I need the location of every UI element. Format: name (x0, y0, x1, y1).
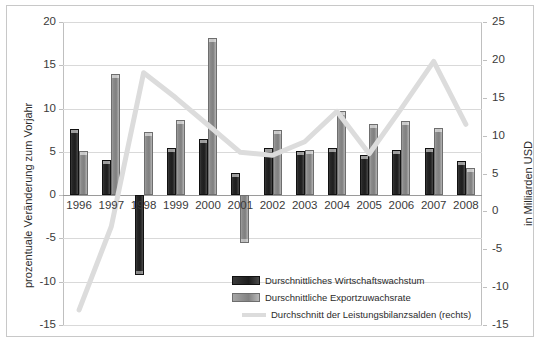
right-axis-title: in Milliarden USD (522, 141, 534, 226)
bar-highlight (467, 169, 474, 172)
bar-highlight (338, 112, 345, 115)
right-axis-tickmark (483, 22, 487, 23)
bar-highlight (232, 174, 239, 177)
bar-highlight (370, 125, 377, 128)
legend-item-balance: Durchschnitt der Leistungsbilanzsalden (… (232, 306, 484, 323)
left-axis-tickmark (59, 65, 63, 66)
left-axis-tickmark (59, 152, 63, 153)
legend-swatch-balance (242, 313, 266, 317)
bar-growth-2001 (231, 173, 240, 196)
bar-growth-1999 (167, 148, 176, 195)
right-axis-tickmark (483, 136, 487, 137)
left-axis-tick-0: 0 (14, 189, 56, 201)
bar-highlight (274, 131, 281, 134)
left-axis-tickmark (59, 195, 63, 196)
left-axis-tickmark (59, 109, 63, 110)
bar-export-1996 (79, 151, 88, 195)
bar-highlight (145, 133, 152, 136)
right-axis-tickmark (483, 60, 487, 61)
bar-highlight (393, 151, 400, 154)
bar-highlight (297, 152, 304, 155)
bar-highlight (112, 75, 119, 78)
bar-growth-2002 (264, 148, 273, 195)
bar-export-2005 (369, 124, 378, 195)
bar-growth-2007 (425, 148, 434, 196)
bar-highlight (458, 162, 465, 165)
bar-export-2008 (466, 168, 475, 195)
legend-swatch-export (232, 293, 260, 302)
right-axis-tick--10: -10 (492, 281, 522, 293)
bar-growth-1996 (70, 129, 79, 196)
right-axis-tick--15: -15 (492, 319, 522, 331)
bar-highlight (209, 39, 216, 42)
bar-highlight (136, 271, 143, 274)
left-axis-tickmark (59, 22, 63, 23)
left-axis-tick-10: 10 (14, 103, 56, 115)
gridline (63, 22, 482, 23)
left-axis-tick-20: 20 (14, 16, 56, 28)
bar-export-2003 (305, 150, 314, 195)
left-axis-tickmark (59, 282, 63, 283)
bar-highlight (71, 130, 78, 133)
bar-export-1997 (111, 74, 120, 195)
left-axis-tick-5: 5 (14, 146, 56, 158)
bar-highlight (80, 152, 87, 155)
bar-highlight (265, 149, 272, 152)
bar-highlight (200, 140, 207, 143)
gridline (63, 238, 482, 239)
left-axis-line (63, 22, 64, 325)
bar-highlight (241, 239, 248, 242)
bar-growth-2008 (457, 161, 466, 195)
left-axis-tick--5: -5 (14, 232, 56, 244)
right-axis-tick-15: 15 (492, 92, 522, 104)
right-axis-tick-0: 0 (492, 205, 522, 217)
bar-export-2002 (273, 130, 282, 195)
chart-legend: Durschnittliches Wirtschaftswachstum Dur… (232, 272, 484, 323)
bar-highlight (361, 156, 368, 159)
left-axis-tick-15: 15 (14, 59, 56, 71)
right-axis-tick--5: -5 (492, 243, 522, 255)
bar-growth-2000 (199, 139, 208, 195)
right-axis-tickmark (483, 325, 487, 326)
bar-highlight (329, 149, 336, 152)
legend-item-export: Durschnittliche Exportzuwachsrate (232, 289, 484, 306)
left-axis-tick--10: -10 (14, 276, 56, 288)
bar-highlight (177, 121, 184, 124)
bar-growth-2003 (296, 151, 305, 195)
bar-highlight (103, 161, 110, 164)
bar-highlight (402, 122, 409, 125)
legend-label-growth: Durschnittliches Wirtschaftswachstum (265, 275, 424, 286)
legend-swatch-growth (232, 276, 260, 285)
bar-highlight (168, 149, 175, 152)
bar-growth-2004 (328, 148, 337, 196)
legend-label-balance: Durchschnitt der Leistungsbilanzsalden (… (271, 309, 471, 320)
right-axis-tickmark (483, 249, 487, 250)
legend-item-growth: Durschnittliches Wirtschaftswachstum (232, 272, 484, 289)
bar-export-2000 (208, 38, 217, 196)
bar-export-2007 (434, 128, 443, 196)
zero-line (63, 195, 482, 196)
bar-growth-2006 (392, 150, 401, 195)
gridline (63, 109, 482, 110)
bar-export-1999 (176, 120, 185, 195)
gridline (63, 325, 482, 326)
bar-highlight (435, 129, 442, 132)
right-axis-tickmark (483, 98, 487, 99)
right-axis-tick-20: 20 (492, 54, 522, 66)
left-axis-tickmark (59, 325, 63, 326)
x-axis-tick-2008: 2008 (446, 200, 486, 212)
bar-highlight (426, 149, 433, 152)
left-axis-tickmark (59, 238, 63, 239)
bar-highlight (306, 151, 313, 154)
right-axis-tick-5: 5 (492, 168, 522, 180)
bar-growth-2005 (360, 155, 369, 195)
gridline (63, 65, 482, 66)
left-axis-tick--15: -15 (14, 319, 56, 331)
legend-label-export: Durschnittliche Exportzuwachsrate (265, 292, 411, 303)
right-axis-tick-10: 10 (492, 130, 522, 142)
bar-growth-1997 (102, 160, 111, 196)
bar-export-1998 (144, 132, 153, 195)
right-axis-tickmark (483, 174, 487, 175)
bar-export-2004 (337, 111, 346, 195)
right-axis-tick-25: 25 (492, 16, 522, 28)
